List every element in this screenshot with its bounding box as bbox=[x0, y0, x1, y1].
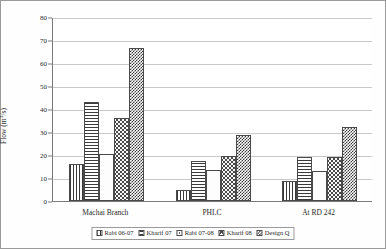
y-tick-label: 30 bbox=[40, 129, 47, 137]
y-tick-label: 20 bbox=[40, 152, 47, 160]
bar bbox=[342, 127, 357, 201]
legend-item[interactable]: Rabi 07-08 bbox=[177, 230, 214, 237]
x-axis-labels: Machai BranchPHLCAt RD 242 bbox=[52, 204, 372, 220]
legend-label: Design Q bbox=[265, 230, 290, 237]
bar bbox=[206, 170, 221, 201]
x-axis-label: PHLC bbox=[202, 208, 221, 217]
legend-swatch-icon bbox=[257, 230, 263, 236]
y-tick-label: 40 bbox=[40, 106, 47, 114]
bar bbox=[176, 190, 191, 201]
y-tick-label: 50 bbox=[40, 83, 47, 91]
legend-label: Rabi 07-08 bbox=[185, 230, 214, 237]
y-tick-label: 70 bbox=[40, 37, 47, 45]
y-axis: Flow (m3/s) 01020304050607080 bbox=[1, 1, 52, 249]
y-tick-label: 10 bbox=[40, 175, 47, 183]
bar bbox=[312, 171, 327, 201]
bar bbox=[327, 157, 342, 201]
x-axis-label: At RD 242 bbox=[302, 208, 335, 217]
y-tick-label: 80 bbox=[40, 14, 47, 22]
bar-group bbox=[176, 18, 251, 201]
legend-swatch-icon bbox=[219, 230, 225, 236]
bar-series-container bbox=[53, 18, 372, 201]
legend-label: Rabi 06-07 bbox=[104, 230, 133, 237]
legend-swatch-icon bbox=[139, 230, 145, 236]
chart-legend: Rabi 06-07Kharif 07Rabi 07-08Kharif 08De… bbox=[91, 227, 294, 240]
bar bbox=[69, 164, 84, 201]
bar bbox=[282, 181, 297, 201]
bar bbox=[84, 102, 99, 201]
legend-swatch-icon bbox=[96, 230, 102, 236]
chart-figure: Flow (m3/s) 01020304050607080 Machai Bra… bbox=[0, 0, 386, 249]
bar bbox=[191, 161, 206, 201]
legend-swatch-icon bbox=[177, 230, 183, 236]
bar bbox=[221, 156, 236, 201]
bar bbox=[114, 118, 129, 201]
bar bbox=[129, 48, 144, 201]
bar bbox=[297, 157, 312, 201]
bar-group bbox=[69, 18, 144, 201]
bar-group bbox=[282, 18, 357, 201]
y-axis-title: Flow (m3/s) bbox=[0, 108, 8, 144]
legend-item[interactable]: Design Q bbox=[257, 230, 290, 237]
y-tick-label: 0 bbox=[44, 198, 48, 206]
y-tick-label: 60 bbox=[40, 60, 47, 68]
legend-label: Kharif 08 bbox=[227, 230, 252, 237]
plot-area bbox=[52, 18, 372, 202]
bar bbox=[99, 154, 114, 201]
x-axis-label: Machai Branch bbox=[82, 208, 128, 217]
bar bbox=[236, 135, 251, 201]
legend-label: Kharif 07 bbox=[147, 230, 172, 237]
legend-item[interactable]: Rabi 06-07 bbox=[96, 230, 133, 237]
legend-item[interactable]: Kharif 07 bbox=[139, 230, 172, 237]
legend-item[interactable]: Kharif 08 bbox=[219, 230, 252, 237]
